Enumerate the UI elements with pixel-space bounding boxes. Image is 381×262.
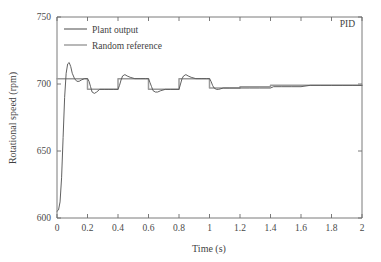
y-axis-title: Rotational speed (rpm) — [7, 72, 19, 164]
x-axis-title: Time (s) — [192, 243, 226, 255]
y-tick-label: 750 — [37, 12, 52, 22]
x-tick-label: 0.6 — [143, 223, 155, 233]
x-tick-label: 0.8 — [173, 223, 185, 233]
controller-annotation: PID — [340, 19, 355, 29]
chart-figure: 00.20.40.60.811.21.41.61.82 600650700750… — [0, 0, 381, 262]
line-chart: 00.20.40.60.811.21.41.61.82 600650700750… — [0, 0, 381, 262]
legend-label-random-reference: Random reference — [92, 41, 162, 51]
x-tick-label: 1 — [207, 223, 212, 233]
x-tick-label: 1.6 — [295, 223, 307, 233]
x-tick-label: 2 — [360, 223, 365, 233]
x-tick-label: 0 — [55, 223, 60, 233]
x-tick-label: 1.4 — [265, 223, 277, 233]
y-tick-label: 650 — [37, 146, 52, 156]
x-tick-label: 1.2 — [234, 223, 246, 233]
y-tick-label: 600 — [37, 213, 52, 223]
legend-label-plant-output: Plant output — [92, 25, 139, 35]
x-tick-label: 0.4 — [112, 223, 124, 233]
y-tick-label: 700 — [37, 79, 52, 89]
x-tick-label: 1.8 — [326, 223, 338, 233]
x-tick-label: 0.2 — [82, 223, 94, 233]
